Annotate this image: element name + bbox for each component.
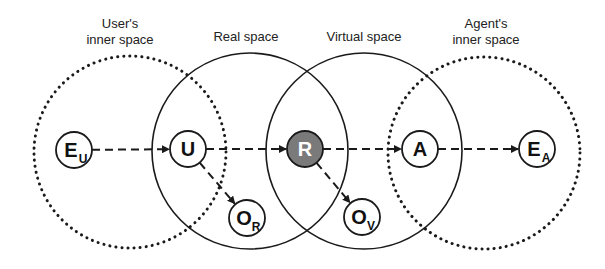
region-agent-inner-label: Agent's (465, 16, 508, 31)
region-user-inner-label: inner space (86, 32, 153, 47)
node-OR-label: O (236, 207, 252, 229)
edge-R-to-OV-arrow (317, 163, 350, 203)
node-OR-subscript: R (252, 220, 261, 234)
node-EU-label: E (64, 139, 77, 161)
node-U-label: U (181, 138, 195, 160)
interaction-spaces-diagram: User'sinner spaceReal spaceVirtual space… (0, 0, 605, 269)
node-EA: EA (519, 131, 555, 167)
node-U: U (170, 131, 206, 167)
node-A-label: A (413, 138, 427, 160)
node-OR: OR (229, 200, 265, 236)
node-A: A (402, 131, 438, 167)
node-EU-subscript: U (79, 152, 88, 166)
node-R: R (287, 131, 323, 167)
region-real-label: Real space (213, 29, 278, 44)
node-OV-subscript: V (367, 219, 375, 233)
node-R-label: R (298, 138, 313, 160)
edge-EU-to-U-arrow (92, 149, 169, 150)
region-agent-inner-label: inner space (452, 32, 519, 47)
region-user-inner-label: User's (102, 16, 139, 31)
node-EA-subscript: A (542, 151, 551, 165)
node-EA-label: E (527, 138, 540, 160)
edge-U-to-OR-arrow (200, 163, 235, 204)
node-OV-label: O (351, 206, 367, 228)
region-virtual-label: Virtual space (327, 29, 402, 44)
node-EU: EU (56, 132, 92, 168)
node-OV: OV (344, 199, 380, 235)
